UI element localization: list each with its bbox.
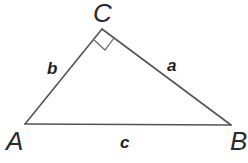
vertex-label-a: A (4, 126, 23, 156)
right-angle-marker (94, 38, 115, 50)
side-b-edge (25, 29, 102, 124)
vertex-label-c: C (93, 0, 112, 28)
side-label-b: b (47, 59, 57, 78)
side-a-edge (102, 29, 231, 125)
right-triangle-diagram: C A B b a c (0, 0, 248, 163)
vertex-label-b: B (230, 126, 247, 156)
side-c-edge (25, 124, 231, 125)
side-label-c: c (120, 133, 130, 152)
side-label-a: a (167, 56, 176, 75)
